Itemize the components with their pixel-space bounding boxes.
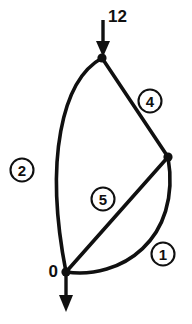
outflow-arrow-bottom-head — [59, 295, 73, 312]
inflow-value-label: 12 — [108, 7, 127, 26]
edge-badge-5[interactable]: 5 — [92, 188, 115, 211]
node-bottom[interactable] — [61, 267, 70, 276]
node-top[interactable] — [97, 53, 106, 62]
edge-badge-2[interactable]: 2 — [11, 159, 34, 182]
graph-canvas: 1 2 4 5 12 0 — [0, 0, 192, 324]
node-layer — [61, 53, 172, 276]
graph-diagram: 1 2 4 5 12 0 — [0, 0, 192, 324]
outflow-value-label: 0 — [49, 262, 58, 281]
edge-badge-1[interactable]: 1 — [152, 243, 175, 266]
node-right[interactable] — [163, 152, 172, 161]
edge-badge-2-label: 2 — [18, 162, 26, 179]
edge-badge-5-label: 5 — [99, 191, 107, 208]
edge-badge-4[interactable]: 4 — [139, 90, 162, 113]
edge-badge-4-label: 4 — [146, 93, 155, 110]
edge-badge-1-label: 1 — [159, 246, 167, 263]
